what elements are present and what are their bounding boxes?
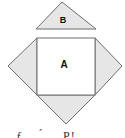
geometry-diagram: B A bbox=[0, 0, 125, 138]
bottom-triangle bbox=[37, 95, 95, 124]
label-a: A bbox=[60, 59, 67, 70]
caption-text: ... ƒ ... ́ ... P! ... bbox=[0, 129, 92, 138]
label-b: B bbox=[60, 15, 67, 25]
caption-partial: ... ƒ ... ́ ... P! ... bbox=[0, 129, 125, 138]
left-triangle bbox=[8, 38, 37, 95]
right-triangle bbox=[95, 38, 122, 95]
